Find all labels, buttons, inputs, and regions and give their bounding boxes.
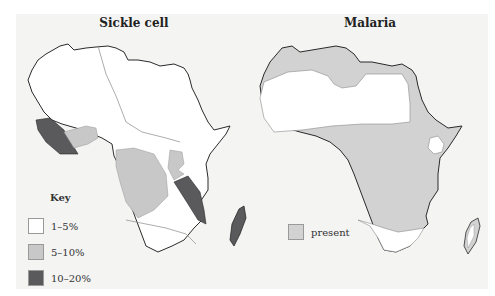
madagascar [230,206,246,246]
malaria-map-panel: Malaria present [252,14,488,289]
swatch-present [288,224,304,240]
swatch-white [28,218,44,234]
swatch-light-gray [28,244,44,260]
swatch-dark-gray [28,270,44,286]
key-label: 10–20% [51,273,91,284]
key-label: 1–5% [51,221,78,232]
key-item-5-10: 5–10% [28,244,85,260]
key-title: Key [50,192,71,203]
key-label: present [311,227,350,238]
key-item-present: present [288,224,350,240]
key-label: 5–10% [51,247,85,258]
key-item-10-20: 10–20% [28,270,91,286]
key-item-1-5: 1–5% [28,218,78,234]
sickle-cell-map-panel: Sickle cell Key 1–5% 5–10% 10–20% [16,14,252,289]
malaria-map [252,14,488,289]
